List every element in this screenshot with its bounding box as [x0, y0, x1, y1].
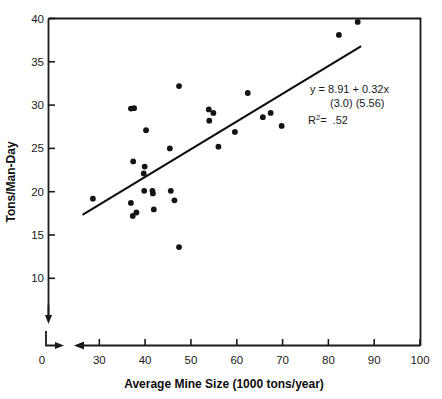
chart-background: [0, 0, 442, 399]
data-point: [176, 83, 182, 89]
data-point: [245, 90, 251, 96]
y-tick-label-40: 40: [31, 13, 44, 25]
scatter-plot-figure: 40 35 30 25 20 15 10 0 30 40 50 60 70: [0, 0, 442, 399]
data-point: [206, 118, 212, 124]
data-point: [134, 210, 140, 216]
data-point: [128, 200, 134, 206]
y-tick-label-10: 10: [31, 272, 44, 284]
data-point: [143, 127, 149, 133]
data-point: [90, 196, 96, 202]
data-point: [336, 32, 342, 38]
x-tick-label-30: 30: [93, 354, 106, 366]
data-point: [131, 105, 137, 111]
data-point: [355, 19, 361, 25]
data-point: [216, 144, 222, 150]
y-tick-label-30: 30: [31, 99, 44, 111]
r-squared-value: = .52: [320, 114, 348, 126]
x-tick-label-70: 70: [276, 354, 289, 366]
data-point: [279, 123, 285, 129]
data-point: [172, 197, 178, 203]
x-tick-label-50: 50: [185, 354, 198, 366]
y-axis-title: Tons/Man-Day: [4, 141, 18, 222]
data-point: [141, 171, 147, 177]
x-axis-tick-labels: 0 30 40 50 60 70 80 90 100: [39, 354, 430, 366]
x-tick-label-90: 90: [368, 354, 381, 366]
data-point: [268, 110, 274, 116]
data-point: [167, 146, 173, 152]
data-point: [130, 158, 136, 164]
x-axis-title: Average Mine Size (1000 tons/year): [124, 377, 324, 391]
data-point: [168, 188, 174, 194]
y-tick-label-35: 35: [31, 56, 44, 68]
x-tick-label-80: 80: [322, 354, 335, 366]
data-point: [176, 244, 182, 250]
annotation-r-squared: R2= .52: [308, 113, 348, 126]
r-squared-symbol: R: [308, 114, 316, 126]
data-point: [260, 114, 266, 120]
annotation-equation: y = 8.91 + 0.32x: [310, 83, 389, 95]
data-point: [141, 188, 147, 194]
x-tick-label-100: 100: [410, 354, 429, 366]
data-point: [206, 107, 212, 113]
y-tick-label-20: 20: [31, 186, 44, 198]
y-tick-label-25: 25: [31, 142, 44, 154]
x-origin-label: 0: [39, 354, 45, 366]
data-point: [142, 164, 148, 170]
data-point: [232, 129, 238, 135]
y-tick-label-15: 15: [31, 229, 44, 241]
data-point: [151, 207, 157, 213]
data-point: [210, 110, 216, 116]
data-point: [150, 191, 156, 197]
x-tick-label-40: 40: [139, 354, 152, 366]
chart-canvas: 40 35 30 25 20 15 10 0 30 40 50 60 70: [0, 0, 442, 399]
x-tick-label-60: 60: [230, 354, 243, 366]
annotation-std-errors: (3.0) (5.56): [330, 97, 384, 109]
